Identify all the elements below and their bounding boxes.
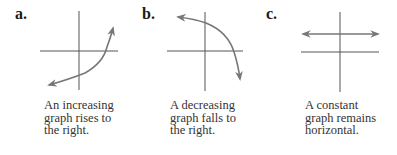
graph-a-increasing <box>40 11 118 90</box>
graph-a-increasing-curve <box>49 28 113 85</box>
panel-b-caption: A decreasing graph falls to the right. <box>170 99 236 137</box>
graph-b-decreasing <box>167 12 243 91</box>
panel-c-caption: A constant graph remains horizontal. <box>305 99 376 137</box>
caption-line: the right. <box>44 124 114 137</box>
caption-line: An increasing <box>44 99 114 112</box>
graph-c-constant <box>301 12 379 92</box>
caption-line: A decreasing <box>170 99 236 112</box>
panel-b-label: b. <box>142 6 155 22</box>
graph-b-decreasing-curve <box>178 17 240 79</box>
caption-line: the right. <box>170 124 236 137</box>
panel-a-caption: An increasing graph rises to the right. <box>44 99 114 137</box>
panel-c-label: c. <box>266 6 277 22</box>
panel-a-label: a. <box>15 6 27 22</box>
caption-line: horizontal. <box>305 124 376 137</box>
caption-line: A constant <box>305 99 376 112</box>
